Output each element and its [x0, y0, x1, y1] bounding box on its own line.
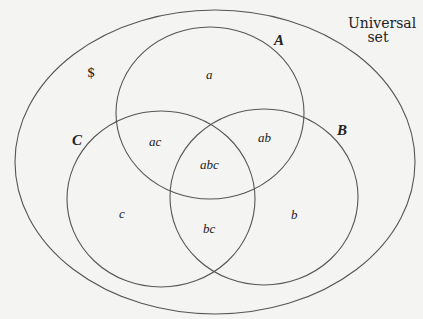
- set-a-label: A: [274, 33, 284, 48]
- venn-diagram: Universal set $ A B C a ac ab abc c b bc: [0, 0, 423, 319]
- set-a-circle: [116, 27, 304, 199]
- region-abc: abc: [200, 158, 219, 171]
- region-c: c: [119, 207, 125, 220]
- set-c-label: C: [72, 133, 82, 148]
- region-a: a: [206, 68, 213, 81]
- region-ac: ac: [149, 135, 161, 148]
- universal-set-label: Universal set: [348, 16, 408, 44]
- region-ab: ab: [258, 131, 271, 144]
- universal-marker: $: [87, 66, 95, 79]
- universal-label-line2: set: [348, 30, 408, 44]
- region-b: b: [291, 208, 298, 221]
- region-bc: bc: [203, 222, 215, 235]
- universal-label-line1: Universal: [348, 16, 408, 30]
- set-b-label: B: [337, 123, 347, 138]
